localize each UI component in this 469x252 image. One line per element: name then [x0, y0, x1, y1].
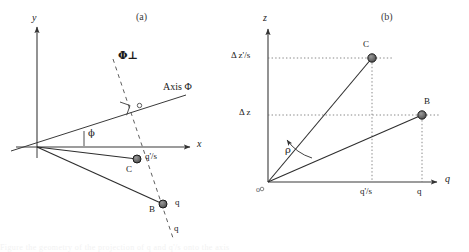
caption-strip: Figure the geometry of the projection of… — [0, 243, 469, 252]
panel-a-drawing — [11, 27, 190, 241]
panel-a-axis-y-label: y — [32, 13, 36, 23]
panel-a-point-b-marker — [159, 200, 167, 208]
panel-b-origin-label: o — [256, 186, 260, 194]
panel-a-point-c-value-label: q'/s — [145, 152, 157, 161]
panel-b-drawing — [260, 29, 440, 191]
panel-b-axis-q-label: q — [445, 174, 450, 184]
panel-b-angle-rho-label: ρ — [285, 145, 291, 155]
panel-a-point-c-marker — [133, 155, 141, 163]
panel-b-ray-to-c — [268, 58, 372, 182]
panel-b-ray-to-b — [268, 115, 422, 182]
figure-root: (a) y x Axis Φ Φ⊥ ϕ C q'/s B q q (b) z q… — [0, 0, 469, 252]
panel-b-origin-marker — [260, 187, 264, 191]
panel-b-point-b-label: B — [424, 97, 430, 106]
panel-b-axis-z-label: z — [263, 13, 267, 23]
panel-a-ray-to-c — [37, 147, 137, 159]
panel-b-point-c-label: C — [363, 40, 369, 49]
panel-b-tick-q-outer: q — [417, 187, 422, 196]
panel-b-tick-z-upper: Δ z'/s — [231, 51, 250, 60]
panel-b-tick-q-inner: q'/s — [360, 187, 372, 196]
panel-a-dashed-line-label: q — [174, 224, 179, 233]
panel-a-angle-phi-label: ϕ — [88, 128, 95, 138]
panel-b-tick-z-lower: Δ z — [239, 108, 251, 117]
panel-a-point-b-value-label: q — [175, 198, 180, 207]
panel-a-point-b-label: B — [149, 205, 155, 214]
panel-b-point-b-marker — [418, 111, 426, 119]
panel-a-circle-marker — [137, 103, 141, 107]
panel-a-phi-perp-label: Φ⊥ — [118, 50, 138, 61]
panel-b-point-c-marker — [368, 54, 376, 62]
panel-a-point-c-label: C — [126, 165, 132, 174]
figure-drawing — [0, 0, 469, 252]
panel-b-tag: (b) — [381, 12, 393, 22]
panel-a-axis-phi-label: Axis Φ — [163, 82, 192, 92]
panel-a-tag: (a) — [136, 12, 147, 22]
panel-a-axis-x-label: x — [197, 139, 201, 149]
